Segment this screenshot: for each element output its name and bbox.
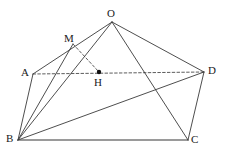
edge-A-D-dashed — [33, 72, 204, 74]
vertex-label-b: B — [6, 133, 13, 144]
edge-D-C — [188, 72, 204, 140]
edge-O-C — [112, 22, 188, 140]
vertex-label-c: C — [191, 134, 198, 145]
geometry-figure: OMADHBC — [0, 0, 229, 158]
vertex-dot-h — [97, 70, 101, 74]
edge-A-O — [33, 22, 112, 74]
vertex-label-d: D — [208, 65, 216, 76]
vertex-label-h: H — [94, 77, 102, 88]
edge-O-D — [112, 22, 204, 72]
edge-B-D — [18, 72, 204, 140]
vertex-label-m: M — [64, 33, 74, 44]
edge-M-H-dashed — [73, 44, 99, 72]
vertex-label-a: A — [21, 67, 29, 78]
vertex-label-o: O — [107, 8, 115, 19]
edge-B-M — [18, 44, 73, 140]
